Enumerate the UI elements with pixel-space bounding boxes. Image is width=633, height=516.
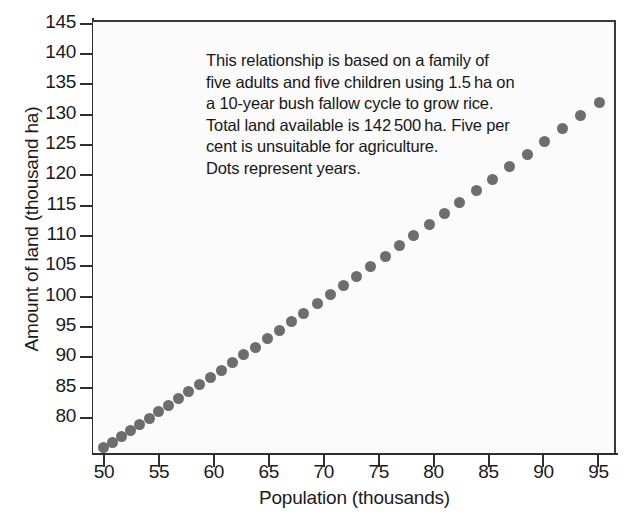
y-axis-tick — [80, 53, 93, 55]
data-point — [394, 240, 405, 251]
annotation-line: five adults and five children using 1.5 … — [206, 72, 536, 94]
data-point — [134, 419, 145, 430]
x-axis-title: Population (thousands) — [93, 487, 616, 509]
data-point — [424, 219, 435, 230]
y-axis-tick — [80, 296, 93, 298]
x-axis-tick-label: 85 — [466, 461, 512, 483]
data-point — [439, 208, 450, 219]
data-point — [183, 386, 194, 397]
data-point — [227, 357, 238, 368]
y-axis-tick-label: 140 — [28, 41, 76, 63]
y-axis-tick-label: 85 — [28, 375, 76, 397]
plot-area: This relationship is based on a family o… — [93, 20, 616, 453]
data-point — [539, 136, 550, 147]
data-point — [594, 97, 605, 108]
y-axis-tick — [80, 83, 93, 85]
data-point — [471, 185, 482, 196]
data-point — [274, 325, 285, 336]
data-point — [262, 333, 273, 344]
y-axis-tick — [80, 205, 93, 207]
x-axis-tick-label: 95 — [575, 461, 621, 483]
data-point — [575, 110, 586, 121]
data-point — [173, 393, 184, 404]
data-point — [298, 308, 309, 319]
y-axis-tick — [80, 144, 93, 146]
x-axis-tick-label: 65 — [246, 461, 292, 483]
data-point — [194, 379, 205, 390]
data-point — [286, 316, 297, 327]
data-point — [338, 280, 349, 291]
y-axis-tick-label: 90 — [28, 344, 76, 366]
chart-annotation-note: This relationship is based on a family o… — [206, 50, 536, 179]
x-axis-tick-label: 70 — [301, 461, 347, 483]
annotation-line: a 10-year bush fallow cycle to grow rice… — [206, 93, 536, 115]
data-point — [487, 174, 498, 185]
y-axis-tick-label: 130 — [28, 102, 76, 124]
data-point — [408, 230, 419, 241]
data-point — [250, 342, 261, 353]
y-axis-tick — [80, 265, 93, 267]
y-axis-tick — [80, 387, 93, 389]
y-axis-tick — [80, 174, 93, 176]
y-axis-tick — [80, 114, 93, 116]
x-axis-tick-label: 55 — [136, 461, 182, 483]
data-point — [238, 349, 249, 360]
y-axis-tick — [80, 235, 93, 237]
y-axis-tick-labels: 80859095100105110115120125130135140145 — [24, 0, 76, 516]
y-axis-tick — [80, 417, 93, 419]
y-axis-tick-label: 145 — [28, 11, 76, 33]
data-point — [205, 372, 216, 383]
y-axis-tick-label: 135 — [28, 71, 76, 93]
y-axis-tick — [80, 23, 93, 25]
y-axis-tick-label: 125 — [28, 132, 76, 154]
data-point — [454, 197, 465, 208]
x-axis-line — [92, 453, 618, 455]
y-axis-tick-label: 100 — [28, 284, 76, 306]
x-axis-tick-label: 75 — [356, 461, 402, 483]
data-point — [365, 261, 376, 272]
y-axis-tick — [80, 326, 93, 328]
scatter-chart-figure: Amount of land (thousand ha) 80859095100… — [0, 0, 633, 516]
annotation-line: This relationship is based on a family o… — [206, 50, 536, 72]
data-point — [163, 400, 174, 411]
y-axis-tick-label: 120 — [28, 162, 76, 184]
y-axis-tick — [80, 356, 93, 358]
y-axis-tick-label: 115 — [28, 193, 76, 215]
annotation-line: Total land available is 142 500 ha. Five… — [206, 115, 536, 137]
x-axis-tick-label: 90 — [520, 461, 566, 483]
annotation-line: Dots represent years. — [206, 158, 536, 180]
x-axis-tick-label: 50 — [81, 461, 127, 483]
y-axis-tick-label: 105 — [28, 253, 76, 275]
data-point — [216, 365, 227, 376]
data-point — [380, 251, 391, 262]
y-axis-tick-label: 95 — [28, 314, 76, 336]
data-point — [312, 298, 323, 309]
data-point — [325, 289, 336, 300]
annotation-line: cent is unsuitable for agriculture. — [206, 136, 536, 158]
data-point — [557, 123, 568, 134]
x-axis-tick-label: 80 — [411, 461, 457, 483]
y-axis-tick-label: 80 — [28, 405, 76, 427]
y-axis-tick-label: 110 — [28, 223, 76, 245]
data-point — [351, 271, 362, 282]
data-point — [522, 149, 533, 160]
x-axis-tick-label: 60 — [191, 461, 237, 483]
